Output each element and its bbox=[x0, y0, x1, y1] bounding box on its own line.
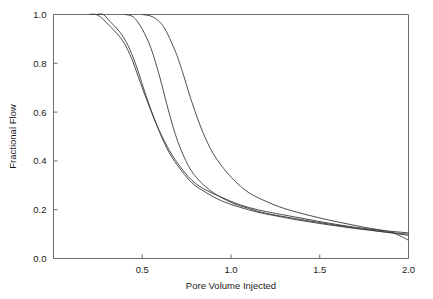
axes-group bbox=[54, 15, 409, 259]
x-tick-marks bbox=[142, 255, 408, 259]
y-tick-label: 0.6 bbox=[33, 107, 46, 118]
y-tick-label: 0.4 bbox=[33, 155, 46, 166]
data-curve bbox=[89, 14, 409, 233]
fractional-flow-chart: 0.51.01.52.0 0.00.20.40.60.81.0 Pore Vol… bbox=[0, 0, 433, 299]
y-tick-label: 0.0 bbox=[33, 253, 46, 264]
y-tick-label: 1.0 bbox=[33, 9, 46, 20]
x-tick-label: 1.5 bbox=[313, 264, 326, 275]
x-axis-title: Pore Volume Injected bbox=[186, 280, 276, 291]
data-curves bbox=[89, 14, 409, 240]
x-tick-label: 1.0 bbox=[224, 264, 237, 275]
y-tick-marks bbox=[54, 15, 58, 259]
y-tick-label: 0.8 bbox=[33, 58, 46, 69]
y-tick-label: 0.2 bbox=[33, 204, 46, 215]
data-curve bbox=[142, 15, 408, 241]
data-curve bbox=[125, 15, 409, 236]
data-curve bbox=[96, 14, 408, 234]
x-tick-labels: 0.51.01.52.0 bbox=[136, 264, 415, 275]
y-axis-title: Fractional Flow bbox=[7, 104, 18, 169]
figure-container: 0.51.01.52.0 0.00.20.40.60.81.0 Pore Vol… bbox=[0, 0, 433, 299]
x-tick-label: 2.0 bbox=[402, 264, 415, 275]
x-tick-label: 0.5 bbox=[136, 264, 149, 275]
y-tick-labels: 0.00.20.40.60.81.0 bbox=[33, 9, 46, 264]
